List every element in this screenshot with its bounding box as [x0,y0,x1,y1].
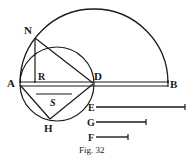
figure-caption: Fig. 32 [79,145,105,155]
label-r: R [38,71,46,82]
small-circle [20,47,94,121]
label-f: F [88,132,94,143]
geometry-figure: N A R D B S H E G F Fig. 32 [0,0,191,160]
label-d: D [94,70,102,82]
label-e: E [88,102,95,113]
segment-hd [50,84,93,119]
label-a: A [7,77,15,89]
label-h: H [44,122,53,134]
label-g: G [87,117,95,128]
label-n: N [24,24,32,36]
label-b: B [170,78,178,90]
label-s: S [50,97,56,108]
